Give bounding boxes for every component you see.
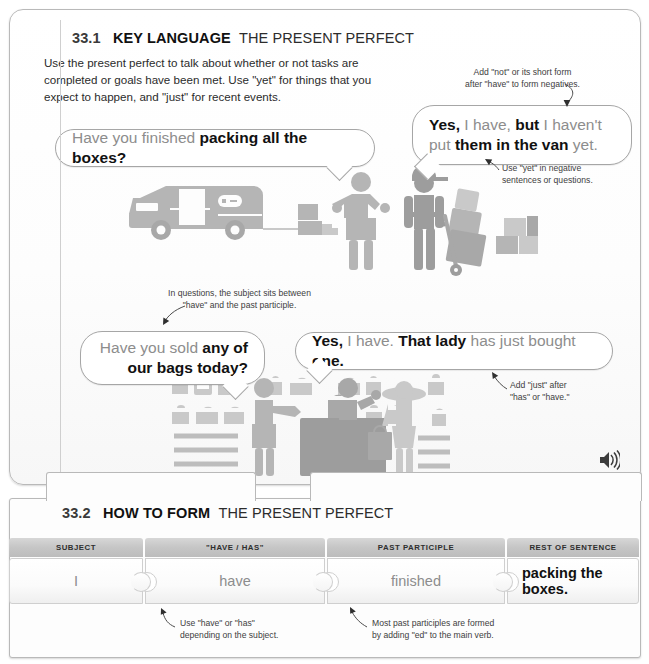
annotation-past-participles: Most past participles are formed by addi… <box>372 617 494 641</box>
puzzle-knob-3 <box>493 572 513 592</box>
puzzle-knob-1 <box>131 572 151 592</box>
textbook-page: 33.1 KEY LANGUAGE THE PRESENT PERFECT Us… <box>0 0 649 664</box>
leader-lines-bottom <box>0 0 649 664</box>
annotation-participle-line1: Most past participles are formed <box>372 617 494 629</box>
annotation-use-have-has: Use "have" or "has" depending on the sub… <box>180 617 278 641</box>
puzzle-knob-2 <box>313 572 333 592</box>
annotation-have-has-line2: depending on the subject. <box>180 629 278 641</box>
annotation-have-has-line1: Use "have" or "has" <box>180 617 278 629</box>
annotation-participle-line2: by adding "ed" to the main verb. <box>372 629 494 641</box>
